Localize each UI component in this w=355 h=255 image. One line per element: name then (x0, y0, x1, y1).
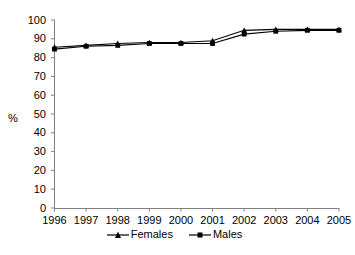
legend-item-males: Males (189, 229, 242, 240)
data-point-square (305, 28, 310, 33)
x-tick-label: 2004 (291, 215, 323, 226)
y-tick-label: 40 (20, 127, 46, 138)
data-point-square (147, 41, 152, 46)
data-point-square (210, 41, 215, 46)
y-tick-label: 90 (20, 33, 46, 44)
y-tick-label: 100 (20, 15, 46, 26)
y-tick-label: 30 (20, 146, 46, 157)
triangle-marker-icon (107, 230, 129, 240)
y-tick-label: 0 (20, 203, 46, 214)
data-series-layer (52, 27, 342, 52)
y-tick-label: 70 (20, 71, 46, 82)
x-tick-label: 2003 (260, 215, 292, 226)
square-marker-icon (189, 230, 211, 240)
series-line (55, 30, 340, 49)
y-tick-label: 80 (20, 52, 46, 63)
x-tick-label: 1996 (39, 215, 71, 226)
y-tick-label: 60 (20, 90, 46, 101)
data-point-square (115, 43, 120, 48)
x-tick-label: 2002 (228, 215, 260, 226)
legend-item-females: Females (107, 229, 173, 240)
legend-label-males: Males (213, 229, 242, 240)
data-point-square (337, 28, 342, 33)
legend-label-females: Females (131, 229, 173, 240)
data-point-square (179, 41, 184, 46)
data-point-square (242, 32, 247, 37)
x-tick-label: 2005 (323, 215, 355, 226)
y-tick-label: 10 (20, 184, 46, 195)
x-tick-label: 2000 (165, 215, 197, 226)
chart-legend: Females Males (0, 229, 349, 240)
data-point-square (273, 29, 278, 34)
data-point-square (52, 47, 57, 52)
y-axis-title: % (8, 113, 18, 124)
x-tick-label: 1999 (133, 215, 165, 226)
data-point-square (84, 44, 89, 49)
series-males (52, 28, 341, 52)
x-tick-label: 2001 (197, 215, 229, 226)
x-tick-label: 1998 (102, 215, 134, 226)
x-tick-label: 1997 (70, 215, 102, 226)
series-line (55, 29, 340, 47)
y-tick-label: 20 (20, 165, 46, 176)
y-tick-label: 50 (20, 109, 46, 120)
